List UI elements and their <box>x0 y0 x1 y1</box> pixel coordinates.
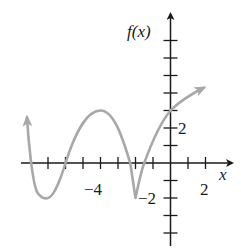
y-tick-label-neg2: −2 <box>138 189 156 208</box>
y-tick-label-2: 2 <box>178 119 187 138</box>
y-axis-label: f(x) <box>127 22 151 41</box>
function-curve <box>27 88 204 199</box>
x-tick-label-neg4: −4 <box>84 180 103 199</box>
function-graph: f(x) x −4 2 2 −2 <box>0 0 241 249</box>
x-tick-label-2: 2 <box>200 180 209 199</box>
x-axis-label: x <box>218 165 227 184</box>
